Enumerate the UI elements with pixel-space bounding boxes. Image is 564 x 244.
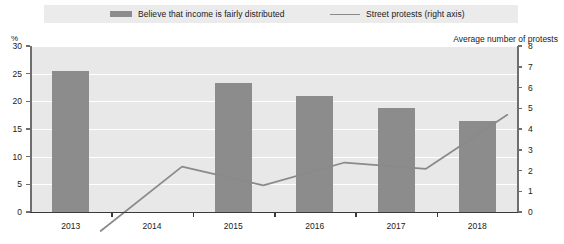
legend-line-swatch-icon [330,14,360,15]
left-axis-tick-label: 30 [13,41,22,51]
right-axis-tick [518,128,522,130]
left-axis-tick [26,156,30,158]
bottom-axis-tick [355,213,357,217]
right-axis-tick-label: 1 [528,186,533,196]
x-axis-tick-label: 2018 [468,221,487,231]
x-axis-tick-label: 2014 [143,221,162,231]
legend-item-line: Street protests (right axis) [330,5,465,23]
legend-bar-swatch-icon [110,11,132,17]
left-axis-tick-label: 5 [17,179,22,189]
left-axis-tick-label: 0 [17,207,22,217]
right-axis-tick [518,191,522,193]
x-axis-tick-label: 2016 [305,221,324,231]
right-axis-tick [518,108,522,110]
right-axis-tick-label: 3 [528,145,533,155]
right-axis-tick-label: 5 [528,103,533,113]
left-axis-spine [30,46,32,212]
right-axis-tick [518,87,522,89]
left-axis-tick [26,128,30,130]
left-axis-tick [26,45,30,47]
left-axis-tick [26,184,30,186]
right-axis-tick-label: 4 [528,124,533,134]
right-axis-title: Average number of protests [453,34,558,44]
gridline [30,74,518,75]
legend-item-bars: Believe that income is fairly distribute… [110,5,285,23]
left-axis-tick-label: 15 [13,124,22,134]
left-axis-tick [26,211,30,213]
left-axis-tick-label: 25 [13,69,22,79]
plot-frame [30,46,518,212]
bottom-axis-tick [193,213,195,217]
right-axis-tick-label: 8 [528,41,533,51]
right-axis-tick-label: 6 [528,83,533,93]
bottom-axis-tick [437,213,439,217]
right-axis-tick [518,45,522,47]
right-axis-tick [518,66,522,68]
legend-label-line: Street protests (right axis) [366,9,465,19]
right-axis-tick [518,149,522,151]
left-axis-tick [26,73,30,75]
bottom-axis-tick [111,213,113,217]
left-axis-tick [26,101,30,103]
x-axis-tick-label: 2017 [387,221,406,231]
legend: Believe that income is fairly distribute… [44,5,518,23]
right-axis-tick-label: 0 [528,207,533,217]
left-axis-tick-label: 20 [13,96,22,106]
bottom-axis-tick [274,213,276,217]
x-axis-tick-label: 2013 [61,221,80,231]
right-axis-tick [518,211,522,213]
protests-line [101,115,508,231]
legend-label-bars: Believe that income is fairly distribute… [138,9,285,19]
right-axis-tick-label: 2 [528,166,533,176]
x-axis-tick-label: 2015 [224,221,243,231]
right-axis-tick-label: 7 [528,62,533,72]
left-axis-tick-label: 10 [13,152,22,162]
gridline [30,46,518,47]
right-axis-tick [518,170,522,172]
